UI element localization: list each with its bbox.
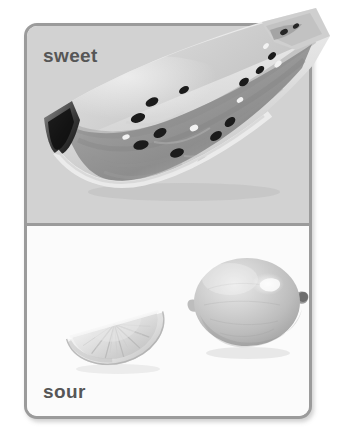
panel-sweet: sweet bbox=[27, 26, 309, 226]
sweet-sour-card: sweet sour bbox=[24, 23, 312, 419]
panel-label-sweet: sweet bbox=[43, 46, 98, 65]
page-root: sweet sour bbox=[0, 0, 342, 441]
panel-sour: sour bbox=[27, 226, 309, 419]
panel-label-sour: sour bbox=[43, 382, 86, 401]
